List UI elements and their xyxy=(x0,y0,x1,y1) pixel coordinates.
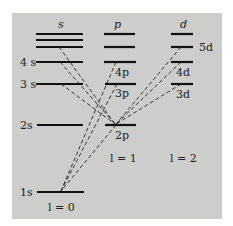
label-l1: l = 1 xyxy=(110,152,137,165)
label-3p: 3p xyxy=(115,87,129,100)
label-3s: 3 s xyxy=(20,78,36,91)
label-4d: 4d xyxy=(176,66,190,79)
label-5d: 5d xyxy=(199,41,213,54)
energy-level-diagram: s p d 4 s xyxy=(0,0,233,226)
label-2s: 2s xyxy=(20,119,33,132)
label-l2: l = 2 xyxy=(170,152,197,165)
label-3d: 3d xyxy=(176,88,190,101)
column-header-s: s xyxy=(58,18,64,31)
column-header-p: p xyxy=(114,18,121,31)
p-levels xyxy=(104,34,136,125)
column-header-d: d xyxy=(180,18,187,31)
label-1s: 1s xyxy=(20,186,33,199)
label-2p: 2p xyxy=(115,129,129,142)
label-4s: 4 s xyxy=(20,56,36,69)
label-l0: l = 0 xyxy=(48,201,75,214)
label-4p: 4p xyxy=(115,66,129,79)
s-levels xyxy=(36,34,84,192)
